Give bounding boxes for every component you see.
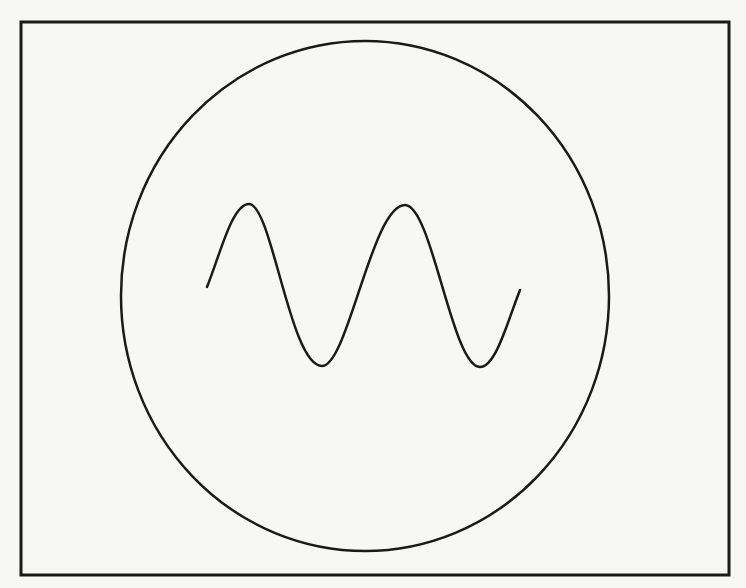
diagram-canvas [0, 0, 746, 588]
outer-frame [21, 22, 729, 575]
sine-wave-icon [207, 204, 520, 367]
circle-outline [121, 41, 609, 551]
